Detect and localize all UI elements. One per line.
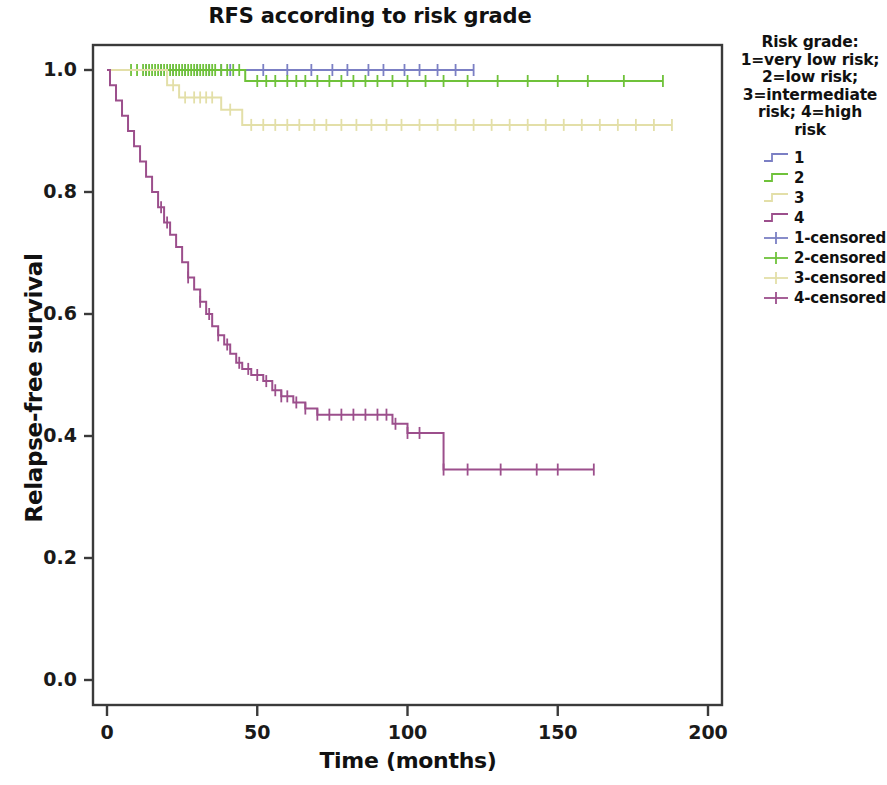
- legend-item-1[interactable]: 1: [763, 148, 886, 168]
- legend-step-swatch-icon: [763, 210, 789, 226]
- legend-item-label: 1: [794, 149, 804, 167]
- legend-censor-swatch-icon: [763, 270, 789, 286]
- legend-title-line: 3=intermediate: [734, 87, 886, 105]
- kaplan-meier-figure: RFS according to risk grade Relapse-free…: [0, 0, 887, 785]
- legend-item-1-censored[interactable]: 1-censored: [763, 228, 886, 248]
- legend-item-label: 3: [794, 189, 804, 207]
- legend-step-swatch-icon: [763, 190, 789, 206]
- x-axis-title: Time (months): [93, 748, 723, 773]
- legend-item-label: 1-censored: [794, 229, 886, 247]
- y-tick-label: 0.0: [17, 668, 77, 690]
- chart-legend: Risk grade:1=very low risk;2=low risk;3=…: [734, 34, 886, 308]
- legend-censor-swatch-icon: [763, 230, 789, 246]
- legend-item-4[interactable]: 4: [763, 208, 886, 228]
- censor-marks: [161, 201, 594, 475]
- legend-step-swatch-icon: [763, 170, 789, 186]
- legend-title-line: risk; 4=high: [734, 104, 886, 122]
- axis-layer: [84, 45, 722, 716]
- legend-item-label: 2: [794, 169, 804, 187]
- legend-item-4-censored[interactable]: 4-censored: [763, 288, 886, 308]
- y-tick-label: 0.2: [17, 546, 77, 568]
- legend-item-3-censored[interactable]: 3-censored: [763, 268, 886, 288]
- censor-marks: [173, 79, 672, 131]
- y-tick-label: 1.0: [17, 58, 77, 80]
- y-tick-label: 0.6: [17, 302, 77, 324]
- x-tick-label: 200: [673, 721, 743, 743]
- legend-title-line: 1=very low risk;: [734, 52, 886, 70]
- legend-title: Risk grade:1=very low risk;2=low risk;3=…: [734, 34, 886, 139]
- legend-item-3[interactable]: 3: [763, 188, 886, 208]
- legend-item-2-censored[interactable]: 2-censored: [763, 248, 886, 268]
- censor-marks: [131, 64, 663, 87]
- series-grade-4: [107, 70, 594, 476]
- legend-item-2[interactable]: 2: [763, 168, 886, 188]
- legend-item-label: 2-censored: [794, 249, 886, 267]
- plot-frame: [93, 45, 722, 705]
- y-axis-title: Relapse-free survival: [21, 178, 47, 598]
- survival-curve: [107, 70, 594, 470]
- x-tick-label: 150: [523, 721, 593, 743]
- x-tick-label: 0: [72, 721, 142, 743]
- legend-title-line: risk: [734, 122, 886, 140]
- legend-censor-swatch-icon: [763, 250, 789, 266]
- series-grade-2: [107, 64, 663, 87]
- y-tick-label: 0.8: [17, 180, 77, 202]
- legend-item-label: 4: [794, 209, 804, 227]
- legend-title-line: 2=low risk;: [734, 69, 886, 87]
- legend-item-label: 4-censored: [794, 289, 886, 307]
- y-tick-label: 0.4: [17, 424, 77, 446]
- series-layer: [107, 64, 672, 476]
- x-tick-label: 100: [373, 721, 443, 743]
- legend-title-line: Risk grade:: [734, 34, 886, 52]
- legend-censor-swatch-icon: [763, 290, 789, 306]
- legend-item-label: 3-censored: [794, 269, 886, 287]
- x-tick-label: 50: [222, 721, 292, 743]
- legend-step-swatch-icon: [763, 150, 789, 166]
- legend-items: 12341-censored2-censored3-censored4-cens…: [734, 148, 886, 308]
